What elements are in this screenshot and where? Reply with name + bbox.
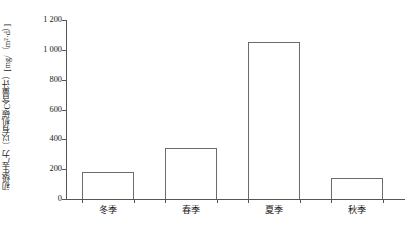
y-axis-tick-mark (62, 199, 66, 200)
y-axis-tick-labels: 02004006008001 0001 200 (22, 0, 62, 240)
y-axis-title-text: 初级生产力（以有机碳C含量计）[mg/（m²·d）] (4, 24, 12, 190)
y-axis-tick-label: 0 (22, 195, 62, 203)
y-axis-tick-mark (62, 139, 66, 140)
x-axis-tick-mark (217, 199, 218, 203)
x-axis-tick-mark (383, 199, 384, 203)
y-axis-tick-label: 1 200 (22, 16, 62, 24)
y-axis-line (66, 20, 67, 199)
x-axis-tick-mark (165, 199, 166, 203)
x-axis-tick-mark (82, 199, 83, 203)
bar-春季 (165, 148, 217, 199)
y-axis-tick-mark (62, 80, 66, 81)
x-axis-category-label-冬季: 冬季 (99, 206, 117, 215)
x-axis-line (66, 199, 405, 200)
y-axis-tick-label: 1 000 (22, 46, 62, 54)
x-axis-category-label-夏季: 夏季 (265, 206, 283, 215)
x-axis-category-label-秋季: 秋季 (348, 206, 366, 215)
y-axis-tick-label: 400 (22, 135, 62, 143)
y-axis-tick-mark (62, 110, 66, 111)
x-axis-tick-mark (331, 199, 332, 203)
y-axis-tick-mark (62, 20, 66, 21)
y-axis-title: 初级生产力（以有机碳C含量计）[mg/（m²·d）] (0, 0, 16, 215)
x-axis-tick-mark (134, 199, 135, 203)
plot-area (66, 20, 399, 199)
x-axis-tick-mark (248, 199, 249, 203)
y-axis-tick-label: 200 (22, 165, 62, 173)
x-axis-category-label-春季: 春季 (182, 206, 200, 215)
primary-productivity-bar-chart: 初级生产力（以有机碳C含量计）[mg/（m²·d）] 0200400600800… (0, 0, 411, 240)
y-axis-tick-mark (62, 169, 66, 170)
y-axis-tick-mark (62, 50, 66, 51)
x-axis-tick-mark (300, 199, 301, 203)
x-axis-category-labels: 冬季春季夏季秋季 (66, 206, 406, 228)
y-axis-tick-label: 600 (22, 105, 62, 113)
bar-夏季 (248, 42, 300, 199)
bar-冬季 (82, 172, 134, 199)
bar-秋季 (331, 178, 383, 199)
y-axis-tick-label: 800 (22, 75, 62, 83)
